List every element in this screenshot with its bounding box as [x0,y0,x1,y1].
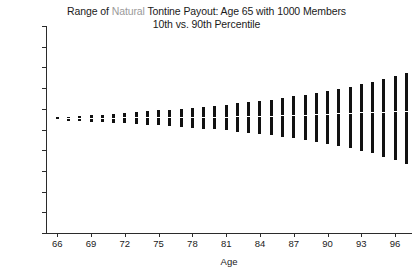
median-notch [405,111,408,112]
x-tick-label: 72 [110,239,140,249]
range-bar [236,103,239,131]
median-notch [371,112,374,113]
x-tick-label: 78 [177,239,207,249]
median-notch [213,117,216,118]
median-notch [247,116,250,117]
y-tick [42,88,47,89]
median-notch [236,116,239,117]
y-tick [42,192,47,193]
median-notch [360,112,363,113]
range-bar [371,82,374,154]
range-bar [67,117,70,121]
y-tick [42,233,47,234]
median-notch [394,111,397,112]
x-tick-label: 84 [245,239,275,249]
range-bar [168,110,171,127]
median-notch [157,117,160,118]
median-notch [67,118,70,119]
median-notch [90,118,93,119]
median-notch [281,115,284,116]
title-part-natural: Natural [112,5,145,17]
median-notch [337,113,340,114]
median-notch [191,117,194,118]
y-tick [42,67,47,68]
median-notch [78,118,81,119]
chart-title: Range of Natural Tontine Payout: Age 65 … [0,5,413,18]
x-tick [361,233,362,237]
range-bar [78,116,81,121]
title-part-2: Tontine Payout: Age 65 with 1000 Members [145,5,346,17]
range-bar [349,87,352,148]
median-notch [123,117,126,118]
median-notch [146,117,149,118]
range-bar [270,100,273,136]
median-notch [292,115,295,116]
range-bar [247,102,250,133]
x-tick-label: 93 [346,239,376,249]
range-bar [360,84,363,150]
median-notch [101,118,104,119]
y-tick [42,171,47,172]
range-bar [146,111,149,125]
range-bar [304,95,307,140]
y-tick [42,212,47,213]
x-tick [294,233,295,237]
x-axis-title: Age [46,256,412,267]
y-tick [42,109,47,110]
x-tick-label: 66 [42,239,72,249]
x-tick [159,233,160,237]
median-notch [225,117,228,118]
x-tick [395,233,396,237]
x-tick-label: 90 [313,239,343,249]
x-tick [226,233,227,237]
x-axis-line [46,233,412,234]
x-tick-label: 87 [279,239,309,249]
range-bar [315,93,318,141]
median-notch [270,116,273,117]
chart-figure: Range of Natural Tontine Payout: Age 65 … [0,0,413,275]
median-notch [112,118,115,119]
x-tick-label: 69 [76,239,106,249]
range-bar [382,79,385,157]
x-tick [125,233,126,237]
range-bar [101,115,104,122]
plot-area: $500$550$600$650$700$750$800$850$900$950… [46,26,412,233]
range-bar [56,117,59,120]
range-bar [337,89,340,146]
range-bar [405,73,408,164]
x-tick [91,233,92,237]
median-notch [168,117,171,118]
range-bar [157,110,160,125]
range-bar [225,105,228,131]
median-notch [304,115,307,116]
x-tick [192,233,193,237]
median-notch [180,117,183,118]
range-bar [292,96,295,138]
y-tick [42,47,47,48]
x-tick-label: 75 [144,239,174,249]
y-tick [42,26,47,27]
median-notch [258,116,261,117]
range-bar [394,76,397,160]
median-notch [326,114,329,115]
median-notch [382,112,385,113]
range-bar [135,112,138,124]
median-notch [56,119,59,120]
median-notch [349,113,352,114]
median-notch [315,114,318,115]
range-bar [112,114,115,123]
range-bar [326,91,329,144]
x-tick [57,233,58,237]
median-notch [135,117,138,118]
range-bar [123,113,126,123]
x-tick [260,233,261,237]
x-tick [328,233,329,237]
median-notch [202,117,205,118]
range-bar [180,109,183,127]
range-bar [258,101,261,134]
x-tick-label: 81 [211,239,241,249]
x-tick-label: 96 [380,239,410,249]
range-bar [191,108,194,128]
range-bar [213,106,216,130]
y-tick [42,150,47,151]
